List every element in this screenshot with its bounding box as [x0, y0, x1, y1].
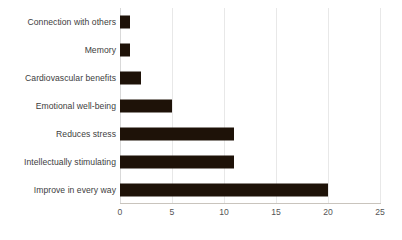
- bar-row: Memory: [0, 36, 402, 64]
- bar-row: Connection with others: [0, 8, 402, 36]
- x-tick-label: 0: [118, 207, 123, 217]
- bar-chart: Connection with others Memory Cardiovasc…: [0, 0, 402, 240]
- bar: [120, 44, 130, 57]
- bar: [120, 100, 172, 113]
- x-tick-label: 15: [271, 207, 281, 217]
- category-label: Cardiovascular benefits: [25, 73, 116, 83]
- bar-rows: Connection with others Memory Cardiovasc…: [0, 8, 402, 204]
- category-label: Connection with others: [27, 17, 116, 27]
- bar: [120, 128, 234, 141]
- x-tick-label: 25: [375, 207, 385, 217]
- bar-row: Improve in every way: [0, 176, 402, 204]
- bar-row: Reduces stress: [0, 120, 402, 148]
- bar-row: Cardiovascular benefits: [0, 64, 402, 92]
- x-tick-label: 10: [219, 207, 229, 217]
- category-label: Intellectually stimulating: [24, 157, 116, 167]
- bar: [120, 16, 130, 29]
- bar: [120, 156, 234, 169]
- bar: [120, 72, 141, 85]
- category-label: Improve in every way: [34, 185, 116, 195]
- category-label: Reduces stress: [56, 129, 116, 139]
- x-axis-tick-labels: 0 5 10 15 20 25: [0, 207, 402, 227]
- category-label: Emotional well-being: [36, 101, 116, 111]
- x-tick-label: 5: [170, 207, 175, 217]
- bar: [120, 184, 328, 197]
- bar-row: Intellectually stimulating: [0, 148, 402, 176]
- bar-row: Emotional well-being: [0, 92, 402, 120]
- category-label: Memory: [85, 45, 116, 55]
- x-tick-label: 20: [323, 207, 333, 217]
